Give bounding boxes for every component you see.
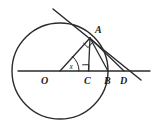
radius-segment-oa xyxy=(60,38,90,71)
geometry-figure-container: O C B D A x xyxy=(0,0,157,138)
point-label-d: D xyxy=(119,75,127,86)
point-label-b: B xyxy=(103,75,111,86)
geometry-diagram: O C B D A x xyxy=(0,0,157,138)
right-angle-mark-at-a xyxy=(84,43,92,47)
angle-label-x: x xyxy=(69,62,74,71)
point-label-c: C xyxy=(84,75,91,86)
tangent-line-at-a xyxy=(53,9,141,80)
point-label-o: O xyxy=(41,75,48,86)
angle-arc-at-o xyxy=(72,56,79,71)
point-label-a: A xyxy=(94,24,102,35)
